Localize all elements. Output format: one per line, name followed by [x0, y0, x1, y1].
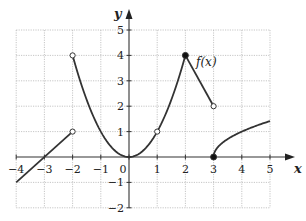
- tick-labels: −4−3−2−1012345−2−112345: [8, 24, 273, 215]
- axes: [16, 9, 295, 208]
- x-axis-arrow-icon: [285, 154, 295, 161]
- x-tick-label: 3: [210, 163, 217, 176]
- y-tick-label: 3: [117, 75, 124, 88]
- y-tick-label: −2: [108, 202, 124, 215]
- x-tick-label: 1: [154, 163, 161, 176]
- y-tick-label: 2: [117, 100, 124, 113]
- function-curves: [16, 55, 270, 182]
- x-tick-label: 4: [238, 163, 245, 176]
- x-tick-label: 5: [267, 163, 274, 176]
- y-tick-label: 1: [117, 126, 124, 139]
- y-tick-label: −1: [108, 176, 124, 189]
- y-axis-arrow-icon: [126, 9, 133, 19]
- y-tick-label: 4: [117, 49, 124, 62]
- x-tick-label: −3: [36, 163, 52, 176]
- y-tick-label: 5: [117, 24, 124, 37]
- function-graph: −4−3−2−1012345−2−112345 x y f(x): [0, 0, 306, 221]
- open-dot-icon: [70, 53, 75, 58]
- grid: [16, 30, 270, 208]
- closed-dot-icon: [182, 52, 188, 58]
- closed-dot-icon: [211, 154, 217, 160]
- x-tick-label: −1: [93, 163, 109, 176]
- x-tick-label: 2: [182, 163, 189, 176]
- x-tick-label: −2: [64, 163, 80, 176]
- function-label: f(x): [195, 55, 217, 69]
- x-tick-label: −4: [8, 163, 24, 176]
- x-axis-label: x: [293, 161, 302, 176]
- x-tick-label: 0: [120, 163, 127, 176]
- open-dot-icon: [155, 129, 160, 134]
- y-axis-label: y: [113, 6, 123, 21]
- open-dot-icon: [70, 129, 75, 134]
- open-dot-icon: [211, 104, 216, 109]
